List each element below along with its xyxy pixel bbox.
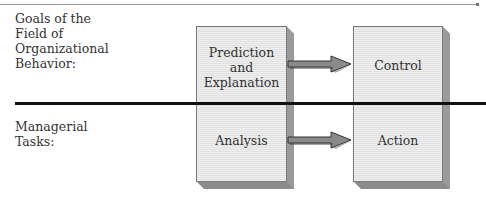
top-rule-marker [476,3,479,6]
arrow-right-icon [287,55,353,75]
label-line: Field of [15,26,109,41]
box-control: Control [353,58,443,73]
box-text-line: and [196,60,287,75]
row-label-goals: Goals of the Field of Organizational Beh… [15,11,109,71]
box-text-line: Prediction [196,45,287,60]
top-rule [0,4,478,5]
label-line: Tasks: [15,134,88,149]
label-line: Managerial [15,119,88,134]
row-divider [15,102,486,105]
box-text-line: Control [353,58,443,73]
label-line: Organizational [15,41,109,56]
box-analysis: Analysis [196,133,287,148]
box-prediction-explanation: Prediction and Explanation [196,45,287,90]
box-text-line: Explanation [196,75,287,90]
arrow-right-icon [287,131,353,151]
box-text-line: Analysis [196,133,287,148]
box-text-line: Action [353,133,443,148]
right-column-box: Control Action [353,26,451,190]
left-column-box: Prediction and Explanation Analysis [196,26,295,190]
label-line: Behavior: [15,56,109,71]
row-label-managerial-tasks: Managerial Tasks: [15,119,88,149]
label-line: Goals of the [15,11,109,26]
box-action: Action [353,133,443,148]
